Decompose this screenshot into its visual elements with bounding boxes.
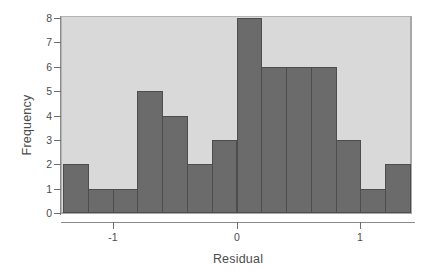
y-axis-title: Frequency	[17, 25, 37, 225]
x-axis-line	[61, 222, 415, 223]
y-axis-tick-mark	[54, 18, 61, 19]
bar-series	[63, 20, 410, 213]
y-axis-tick-mark	[54, 42, 61, 43]
histogram-bar	[261, 67, 287, 213]
y-axis-tick-label: 4	[32, 111, 52, 121]
y-axis-tick-label: 0	[32, 208, 52, 218]
histogram-chart: Frequency 876543210 -101 Residual	[0, 0, 431, 280]
histogram-bar	[311, 67, 337, 213]
y-axis-tick-mark	[54, 91, 61, 92]
x-axis-tick-label: 1	[345, 231, 375, 243]
y-axis-tick-mark	[54, 213, 61, 214]
histogram-bar	[187, 164, 213, 213]
y-axis-tick-label: 3	[32, 135, 52, 145]
histogram-bar	[63, 164, 89, 213]
y-axis-tick-label: 8	[32, 13, 52, 23]
x-axis-tick-mark	[113, 222, 114, 229]
histogram-bar	[212, 140, 238, 213]
plot-area	[63, 18, 410, 213]
histogram-bar	[137, 91, 163, 213]
histogram-bar	[385, 164, 411, 213]
y-axis-tick-mark	[54, 164, 61, 165]
y-axis-tick-mark	[54, 140, 61, 141]
x-axis-title: Residual	[61, 252, 415, 266]
y-axis-tick-mark	[54, 67, 61, 68]
histogram-bar	[237, 18, 263, 213]
y-axis-tick-label: 7	[32, 37, 52, 47]
y-axis-tick-label: 2	[32, 159, 52, 169]
y-axis-tick-label: 1	[32, 184, 52, 194]
y-axis-tick-label: 6	[32, 62, 52, 72]
y-axis-tick-mark	[54, 189, 61, 190]
x-axis-tick-label: -1	[98, 231, 128, 243]
histogram-bar	[88, 189, 114, 213]
y-axis-tick-label: 5	[32, 86, 52, 96]
x-axis-tick-mark	[237, 222, 238, 229]
y-axis-tick-mark	[54, 116, 61, 117]
histogram-bar	[113, 189, 139, 213]
histogram-bar	[360, 189, 386, 213]
x-axis-tick-mark	[360, 222, 361, 229]
histogram-bar	[162, 116, 188, 214]
histogram-bar	[336, 140, 362, 213]
x-axis-tick-label: 0	[222, 231, 252, 243]
histogram-bar	[286, 67, 312, 213]
